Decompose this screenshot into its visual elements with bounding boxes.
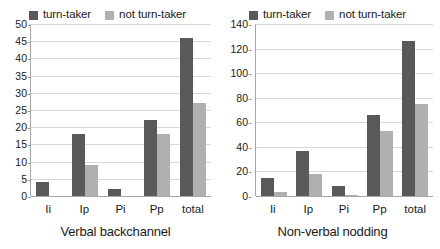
y-axis-tick-label: 15: [15, 139, 27, 149]
x-axis-tick-label: Ip: [291, 196, 327, 220]
bar[interactable]: [402, 41, 415, 196]
bar[interactable]: [157, 134, 170, 196]
bar-group-Pi: [103, 24, 139, 196]
y-axis-tick-mark: -: [249, 191, 253, 201]
y-axis: 0-20-40-60-80-100-120-140-: [225, 24, 251, 196]
x-axis-tick-label: total: [397, 196, 433, 220]
bar[interactable]: [180, 38, 193, 196]
bar[interactable]: [296, 151, 309, 196]
chart-title: Verbal backchannel: [0, 220, 215, 239]
y-axis-tick-label: 10: [15, 157, 27, 167]
x-axis-tick-label: total: [175, 196, 211, 220]
bar-group-Pp: [139, 24, 175, 196]
x-axis-tick-label: Pp: [139, 196, 175, 220]
y-axis-tick-label: 0: [21, 191, 27, 201]
bar-group-Ip: [291, 24, 326, 196]
plot-area: 0-5-10-15-20-25-30-35-40-45-50-: [4, 24, 211, 196]
y-axis-tick-label: 20: [15, 122, 27, 132]
plot-canvas: [255, 24, 433, 196]
y-axis-tick-label: 20: [236, 166, 248, 176]
bar-group-Pi: [327, 24, 362, 196]
x-axis-tick-label: Ii: [255, 196, 291, 220]
chart-panel-1: turn-takernot turn-taker0-5-10-15-20-25-…: [0, 0, 215, 249]
legend-item-turn-taker[interactable]: turn-taker: [249, 9, 311, 21]
bar[interactable]: [309, 174, 322, 196]
chart-panel-2: turn-takernot turn-taker0-20-40-60-80-10…: [215, 0, 440, 249]
y-axis-tick-mark: -: [249, 142, 253, 152]
bar[interactable]: [380, 131, 393, 196]
bar[interactable]: [193, 103, 206, 196]
bar[interactable]: [261, 178, 274, 196]
y-axis-tick-mark: -: [249, 93, 253, 103]
y-axis-tick-label: 35: [15, 71, 27, 81]
bar[interactable]: [108, 189, 121, 196]
y-axis-tick-label: 50: [15, 19, 27, 29]
bar-group-total: [175, 24, 211, 196]
y-axis-tick-mark: -: [249, 117, 253, 127]
y-axis-tick-mark: -: [249, 68, 253, 78]
legend-label: not turn-taker: [119, 9, 186, 21]
bar-group-Pp: [362, 24, 397, 196]
bar[interactable]: [72, 134, 85, 196]
legend: turn-takernot turn-taker: [0, 0, 215, 24]
x-axis: IiIpPiPptotal: [30, 196, 211, 220]
chart-title: Non-verbal nodding: [215, 220, 440, 239]
bar-group-Ip: [67, 24, 103, 196]
bar-group-Ii: [31, 24, 67, 196]
legend-swatch-icon: [325, 11, 334, 20]
x-axis-tick-label: Ip: [66, 196, 102, 220]
bar[interactable]: [332, 186, 345, 196]
y-axis-tick-label: 25: [15, 105, 27, 115]
y-axis-tick-mark: -: [249, 166, 253, 176]
plot-area: 0-20-40-60-80-100-120-140-: [225, 24, 433, 196]
plot-canvas: [30, 24, 211, 196]
bar[interactable]: [36, 182, 49, 196]
y-axis-tick-label: 0: [242, 191, 248, 201]
y-axis-tick-label: 120: [230, 44, 248, 54]
x-axis: IiIpPiPptotal: [255, 196, 433, 220]
legend-item-not-turn-taker[interactable]: not turn-taker: [325, 9, 406, 21]
x-axis-tick-label: Pi: [326, 196, 362, 220]
legend-swatch-icon: [105, 11, 114, 20]
x-axis-tick-label: Ii: [30, 196, 66, 220]
y-axis-tick-label: 40: [236, 142, 248, 152]
bar-groups: [31, 24, 211, 196]
y-axis-tick-label: 45: [15, 36, 27, 46]
legend-label: not turn-taker: [339, 9, 406, 21]
bar-groups: [256, 24, 433, 196]
legend-label: turn-taker: [263, 9, 311, 21]
legend-item-not-turn-taker[interactable]: not turn-taker: [105, 9, 186, 21]
bar-group-total: [398, 24, 433, 196]
legend-label: turn-taker: [43, 9, 91, 21]
legend-item-turn-taker[interactable]: turn-taker: [29, 9, 91, 21]
y-axis-tick-label: 40: [15, 53, 27, 63]
bar-group-Ii: [256, 24, 291, 196]
y-axis-tick-label: 30: [15, 88, 27, 98]
y-axis-tick-mark: -: [249, 44, 253, 54]
y-axis-tick-mark: -: [249, 19, 253, 29]
bar[interactable]: [367, 115, 380, 196]
y-axis-tick-label: 5: [21, 174, 27, 184]
x-axis-tick-label: Pi: [102, 196, 138, 220]
y-axis-tick-label: 80: [236, 93, 248, 103]
bar[interactable]: [85, 165, 98, 196]
bar[interactable]: [144, 120, 157, 196]
y-axis-tick-label: 60: [236, 117, 248, 127]
y-axis-tick-label: 100: [230, 68, 248, 78]
x-axis-tick-label: Pp: [362, 196, 398, 220]
y-axis-tick-label: 140: [230, 19, 248, 29]
y-axis: 0-5-10-15-20-25-30-35-40-45-50-: [4, 24, 30, 196]
bar[interactable]: [415, 104, 428, 196]
figure: turn-takernot turn-taker0-5-10-15-20-25-…: [0, 0, 440, 249]
